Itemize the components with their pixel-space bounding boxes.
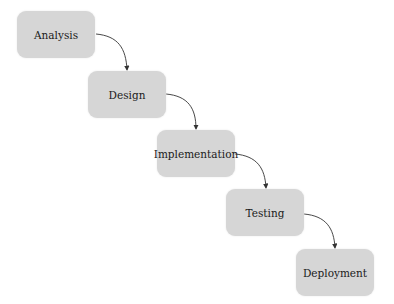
edge-implementation-testing <box>235 154 266 188</box>
edge-design-implementation <box>166 94 196 129</box>
node-label: Design <box>109 89 146 101</box>
node-label: Analysis <box>34 29 78 41</box>
node-label: Implementation <box>154 148 238 160</box>
node-deployment: Deployment <box>296 249 374 296</box>
edge-analysis-design <box>96 34 127 70</box>
node-label: Testing <box>246 207 285 219</box>
node-design: Design <box>88 71 166 118</box>
node-label: Deployment <box>303 267 367 279</box>
node-implementation: Implementation <box>157 130 235 177</box>
node-testing: Testing <box>226 189 304 236</box>
edge-testing-deployment <box>304 214 335 248</box>
node-analysis: Analysis <box>17 11 95 58</box>
